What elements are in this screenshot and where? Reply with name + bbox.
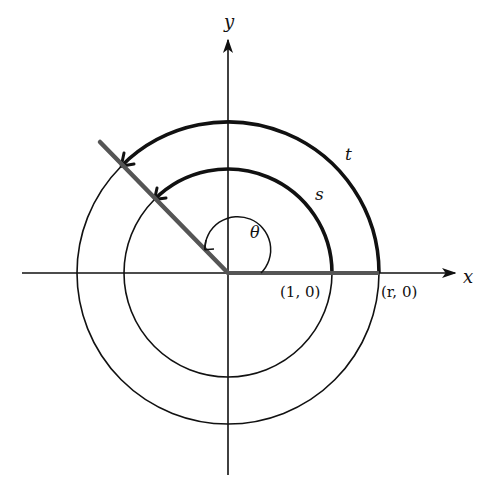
x-axis-label: x bbox=[463, 266, 473, 287]
angle-theta-arc bbox=[205, 217, 271, 273]
y-axis-label: y bbox=[223, 11, 235, 32]
theta-label: θ bbox=[250, 223, 260, 242]
point-r-0-label: (r, 0) bbox=[381, 283, 417, 301]
point-1-0-label: (1, 0) bbox=[280, 283, 320, 301]
arc-s bbox=[155, 169, 333, 273]
arc-s-label: s bbox=[315, 184, 324, 204]
terminal-ray bbox=[100, 142, 228, 273]
arc-t-label: t bbox=[345, 144, 352, 164]
diagram-canvas: y x θ s t (1, 0) (r, 0) bbox=[0, 0, 490, 499]
